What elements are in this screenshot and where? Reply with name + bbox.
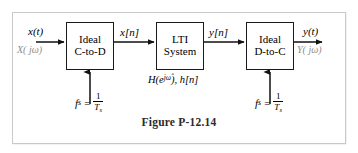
label-sampling-rate-left: fs= 1 Ts (75, 92, 103, 113)
fs-left-subscript: s (78, 98, 81, 107)
label-discrete-output-signal: y[n] (209, 27, 228, 38)
block-lti-system[interactable]: LTI System (156, 22, 204, 70)
fs-right-subscript: s (258, 98, 261, 107)
label-input-frequency-signal: X( jω) (17, 45, 42, 55)
block-ideal-c-to-d[interactable]: Ideal C-to-D (66, 22, 114, 70)
block-dtoc-line2: D-to-C (254, 46, 285, 58)
transfer-function-exponent: jω̂ (164, 73, 171, 82)
fs-right-numerator: 1 (275, 92, 282, 101)
figure-caption: Figure P-12.14 (0, 116, 358, 128)
label-sampling-rate-right: fs= 1 Ts (255, 92, 283, 113)
fs-left-fraction: 1 Ts (93, 92, 103, 113)
fs-right-fraction: 1 Ts (273, 92, 283, 113)
fs-left-equals: = (84, 97, 90, 109)
block-ideal-d-to-c[interactable]: Ideal D-to-C (246, 22, 294, 70)
transfer-function-head: H(e (148, 74, 164, 85)
block-ctod-line2: C-to-D (74, 46, 105, 58)
block-lti-line2: System (164, 46, 196, 58)
label-discrete-input-signal: x[n] (120, 27, 139, 38)
figure-container: Ideal C-to-D LTI System Ideal D-to-C x(t… (0, 0, 358, 153)
fs-right-denominator: Ts (273, 103, 283, 113)
fs-left-denominator: Ts (93, 103, 103, 113)
label-input-time-signal: x(t) (28, 26, 43, 37)
label-output-frequency-signal: Y( jω) (297, 45, 322, 55)
fs-left-numerator: 1 (95, 92, 102, 101)
label-output-time-signal: y(t) (303, 26, 318, 37)
label-transfer-function: H(ejω̂), h[n] (148, 74, 198, 86)
transfer-function-tail: ), h[n] (171, 74, 198, 85)
fs-right-equals: = (264, 97, 270, 109)
